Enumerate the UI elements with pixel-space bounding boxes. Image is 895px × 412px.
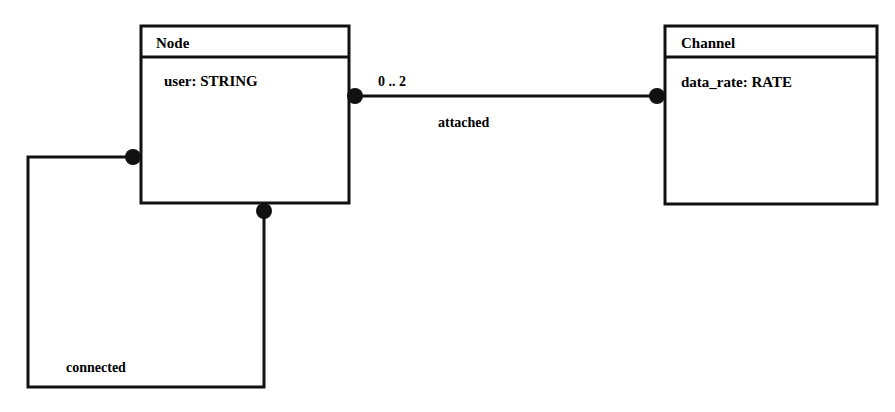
channel-box: [665, 26, 877, 204]
node-class-name: Node: [156, 35, 190, 51]
attached-node-end-dot-icon: [347, 88, 363, 104]
connected-bottom-end-dot-icon: [256, 203, 272, 219]
attached-label: attached: [438, 115, 490, 130]
attached-multiplicity: 0 .. 2: [378, 74, 406, 89]
node-box: [141, 26, 349, 203]
connected-label: connected: [66, 360, 126, 375]
channel-class-name: Channel: [681, 35, 735, 51]
class-node[interactable]: Node user: STRING: [141, 26, 349, 203]
channel-attribute-data-rate: data_rate: RATE: [681, 74, 792, 90]
diagram-canvas: Node user: STRING Channel data_rate: RAT…: [0, 0, 895, 412]
association-attached[interactable]: 0 .. 2 attached: [347, 74, 665, 130]
node-attribute-user: user: STRING: [164, 73, 258, 89]
attached-channel-end-dot-icon: [649, 88, 665, 104]
class-channel[interactable]: Channel data_rate: RATE: [665, 26, 877, 204]
connected-left-end-dot-icon: [125, 149, 141, 165]
